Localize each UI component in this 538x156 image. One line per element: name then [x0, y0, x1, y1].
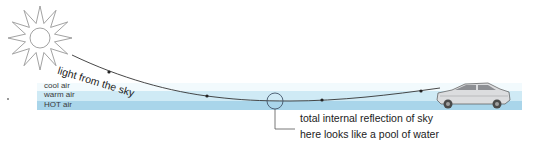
ray-arrow-4 [419, 89, 422, 92]
car-icon [437, 83, 510, 109]
callout-line-2: here looks like a pool of water [300, 126, 439, 142]
callout-leader-line [275, 109, 295, 129]
ray-arrow-3 [320, 98, 323, 101]
sun-icon [8, 6, 72, 70]
ray-arrow-1 [107, 70, 110, 73]
ray-arrow-2 [205, 94, 208, 97]
mirage-diagram: cool air warm air HOT air lig [0, 0, 538, 156]
callout-text: total internal reflection of sky here lo… [300, 110, 439, 142]
callout-line-1: total internal reflection of sky [300, 110, 439, 126]
